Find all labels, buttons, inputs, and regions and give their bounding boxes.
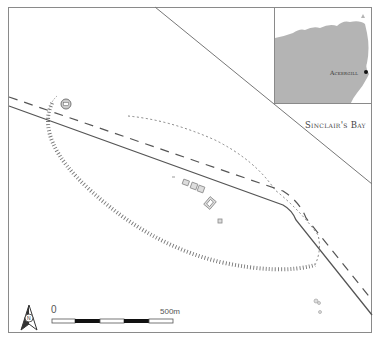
building-features-icon	[172, 176, 222, 223]
inset-place-label: Ackergill	[330, 69, 358, 76]
location-dot-icon	[364, 70, 368, 74]
dotted-boundary	[128, 116, 319, 265]
scale-bar	[52, 319, 173, 323]
dotted-arc	[49, 96, 57, 118]
scale-start-label: 0	[51, 304, 57, 315]
road-solid	[9, 106, 372, 315]
small-features-icon	[314, 299, 322, 314]
inset-land	[275, 8, 372, 104]
scale-end-label: 500m	[160, 307, 180, 316]
circle-feature-icon	[61, 99, 71, 109]
enclosure-hachure	[48, 103, 315, 269]
location-inset-map: Ackergill	[274, 7, 372, 104]
bay-label: Sinclair's Bay	[305, 120, 366, 130]
north-label: N	[27, 315, 31, 321]
